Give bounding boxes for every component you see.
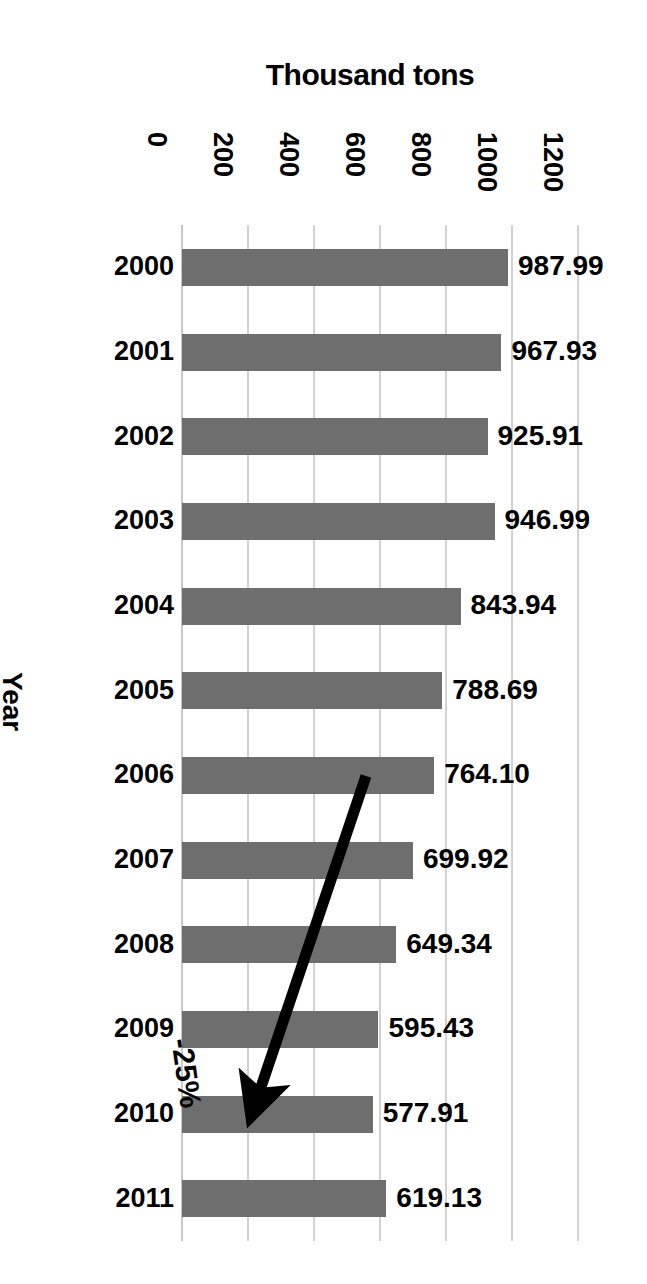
bar <box>182 926 396 963</box>
gridline <box>577 225 579 1241</box>
x-tick-label: 0 <box>144 132 170 212</box>
bar <box>182 503 495 540</box>
bar-value-label: 967.93 <box>511 335 597 367</box>
bar-value-label: 946.99 <box>505 504 591 536</box>
y-tick-label: 2009 <box>78 1013 174 1044</box>
y-tick-label: 2004 <box>78 590 174 621</box>
y-axis-title: Year <box>0 672 28 731</box>
x-tick-label: 1200 <box>540 132 566 212</box>
bar <box>182 842 413 879</box>
bar <box>182 334 501 371</box>
plot-area <box>182 225 578 1241</box>
y-tick-label: 2000 <box>78 251 174 282</box>
bar <box>182 672 442 709</box>
y-tick-label: 2006 <box>78 759 174 790</box>
bar <box>182 1180 386 1217</box>
y-tick-label: 2008 <box>78 929 174 960</box>
bar-chart: Thousand tons 020040060080010001200 2000… <box>0 0 647 1284</box>
y-tick-label: 2010 <box>78 1098 174 1129</box>
bar-value-label: 843.94 <box>471 589 557 621</box>
bar <box>182 588 461 625</box>
bar-value-label: 925.91 <box>498 420 584 452</box>
bar <box>182 249 508 286</box>
x-tick-label: 400 <box>276 132 302 212</box>
gridline <box>445 225 447 1241</box>
chart-title: Thousand tons <box>160 58 580 92</box>
gridline <box>247 225 249 1241</box>
x-tick-label: 600 <box>342 132 368 212</box>
y-tick-label: 2011 <box>78 1183 174 1214</box>
y-tick-label: 2003 <box>78 505 174 536</box>
bar <box>182 1011 378 1048</box>
gridline <box>379 225 381 1241</box>
gridline <box>511 225 513 1241</box>
y-tick-label: 2001 <box>78 336 174 367</box>
bar-value-label: 619.13 <box>396 1182 482 1214</box>
bar-value-label: 649.34 <box>406 928 492 960</box>
x-tick-label: 200 <box>210 132 236 212</box>
bar-value-label: 987.99 <box>518 250 604 282</box>
bar <box>182 757 434 794</box>
bar-value-label: 577.91 <box>383 1097 469 1129</box>
bar <box>182 418 488 455</box>
bar <box>182 1096 373 1133</box>
y-tick-label: 2002 <box>78 421 174 452</box>
x-tick-label: 1000 <box>474 132 500 212</box>
y-tick-label: 2005 <box>78 675 174 706</box>
gridline <box>313 225 315 1241</box>
bar-value-label: 595.43 <box>388 1012 474 1044</box>
x-tick-label: 800 <box>408 132 434 212</box>
bar-value-label: 699.92 <box>423 843 509 875</box>
bar-value-label: 764.10 <box>444 758 530 790</box>
y-tick-label: 2007 <box>78 844 174 875</box>
bar-value-label: 788.69 <box>452 674 538 706</box>
